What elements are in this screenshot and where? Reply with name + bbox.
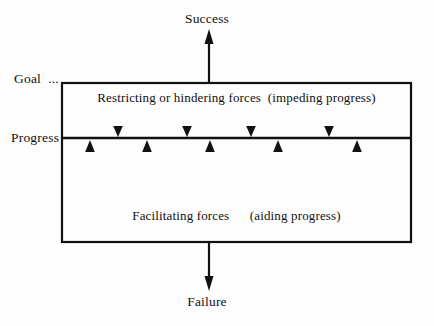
driving-force-arrow (142, 140, 152, 152)
failure-arrow (205, 242, 214, 291)
goal-label: Goal ... (14, 72, 59, 86)
driving-force-arrows (85, 140, 362, 152)
force-field-diagram: Success Goal ... Progress Restricting or… (0, 0, 434, 326)
restraining-force-arrow (324, 126, 334, 137)
driving-force-arrow (85, 140, 95, 152)
failure-label: Failure (0, 295, 414, 309)
success-label: Success (0, 12, 414, 26)
restricting-forces-label: Restricting or hindering forces (impedin… (62, 91, 411, 104)
restraining-force-arrow (182, 126, 192, 137)
success-arrow (205, 29, 214, 83)
driving-force-arrow (205, 140, 215, 152)
progress-label: Progress (11, 131, 59, 145)
restraining-force-arrows (113, 126, 334, 137)
facilitating-forces-label: Facilitating forces (aiding progress) (62, 209, 411, 222)
driving-force-arrow (273, 140, 283, 152)
diagram-canvas (0, 0, 434, 326)
restraining-force-arrow (246, 126, 256, 137)
driving-force-arrow (352, 140, 362, 152)
restraining-force-arrow (113, 126, 123, 137)
